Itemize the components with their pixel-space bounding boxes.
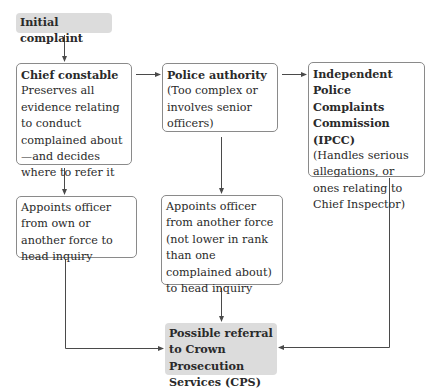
node-initial-complaint: Initial complaint — [16, 13, 112, 33]
node-appoint-own-force-body: Appoints officer from own or another for… — [21, 200, 132, 266]
node-cps-referral-label: Possible referral to Crown Prosecution S… — [169, 326, 273, 389]
node-chief-constable-title: Chief constable — [21, 67, 127, 83]
node-ipcc-body: (Handles serious allegations, or ones re… — [313, 148, 420, 214]
node-police-authority-body: (Too complex or involves senior officers… — [167, 83, 273, 132]
arrow-appoint-own-to-cps — [66, 259, 164, 349]
node-appoint-own-force: Appoints officer from own or another for… — [16, 196, 137, 258]
node-ipcc-title: Independent Police Complaints Commission… — [313, 66, 420, 148]
node-chief-constable-body: Preserves all evidence relating to condu… — [21, 83, 127, 181]
node-cps-referral: Possible referral to Crown Prosecution S… — [165, 323, 277, 375]
node-chief-constable: Chief constable Preserves all evidence r… — [16, 63, 132, 165]
node-ipcc: Independent Police Complaints Commission… — [308, 62, 425, 177]
node-initial-complaint-label: Initial complaint — [20, 15, 83, 45]
node-police-authority-title: Police authority — [167, 67, 273, 83]
node-appoint-other-force: Appoints officer from another force (not… — [161, 195, 283, 285]
node-police-authority: Police authority (Too complex or involve… — [162, 63, 278, 132]
node-appoint-other-force-body: Appoints officer from another force (not… — [166, 199, 278, 297]
